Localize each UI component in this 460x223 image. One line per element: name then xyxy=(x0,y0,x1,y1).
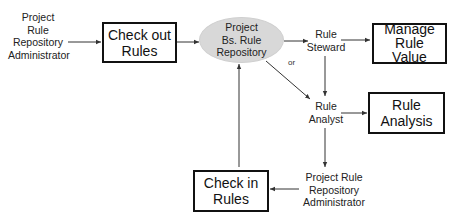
rule-analysis-line1: Rule xyxy=(392,97,421,113)
admin-bottom-line1: Project Rule xyxy=(296,171,372,184)
check-out-line2: Rules xyxy=(122,43,158,59)
actor-rule-steward: Rule Steward xyxy=(306,28,346,53)
rule-analysis-box: Rule Analysis xyxy=(368,92,445,134)
rule-workflow-diagram: Project Rule Repository Administrator Ch… xyxy=(0,0,460,223)
check-out-line1: Check out xyxy=(108,27,171,43)
rule-analyst-line1: Rule xyxy=(306,100,346,113)
admin-bottom-line3: Administrator xyxy=(296,196,372,209)
repository-line1: Project xyxy=(225,21,258,34)
project-rule-repository-node: Project Bs. Rule Repository xyxy=(199,17,284,63)
actor-admin-top-line3: Repository xyxy=(8,36,68,49)
repository-line3: Repository xyxy=(216,46,266,59)
admin-bottom-line2: Repository xyxy=(296,184,372,197)
check-in-line1: Check in xyxy=(204,175,258,191)
actor-admin-top-line1: Project xyxy=(8,11,68,24)
manage-value-line3: Value xyxy=(392,50,427,64)
rule-steward-line2: Steward xyxy=(306,41,346,54)
or-label: or xyxy=(288,58,295,67)
check-in-rules-box: Check in Rules xyxy=(193,170,269,212)
actor-admin-top-line2: Rule xyxy=(8,24,68,37)
actor-rule-analyst: Rule Analyst xyxy=(306,100,346,125)
repository-line2: Bs. Rule xyxy=(222,34,262,47)
rule-steward-line1: Rule xyxy=(306,28,346,41)
manage-rule-value-box: Manage Rule Value xyxy=(372,23,447,64)
manage-value-line2: Rule xyxy=(395,36,424,50)
rule-analyst-line2: Analyst xyxy=(306,113,346,126)
actor-admin-top-line4: Administrator xyxy=(8,49,68,62)
rule-analysis-line2: Analysis xyxy=(380,113,432,129)
actor-admin-bottom: Project Rule Repository Administrator xyxy=(296,171,372,209)
check-in-line2: Rules xyxy=(213,191,249,207)
check-out-rules-box: Check out Rules xyxy=(102,22,177,63)
actor-admin-top: Project Rule Repository Administrator xyxy=(8,11,68,61)
